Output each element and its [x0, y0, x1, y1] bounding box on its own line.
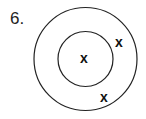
- concentric-circles-diagram: x x x: [0, 0, 146, 119]
- mark-center: x: [80, 50, 88, 66]
- mark-upper-right: x: [115, 34, 123, 50]
- mark-lower: x: [100, 89, 108, 105]
